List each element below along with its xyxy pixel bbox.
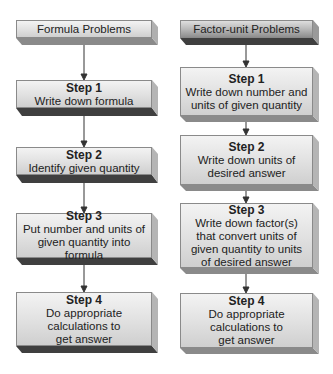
step-text: of desired answer: [201, 256, 292, 269]
step-title: Step 2: [228, 140, 264, 154]
step-text: desired answer: [208, 167, 286, 180]
step-text: given quantity into formula: [17, 236, 151, 262]
step-text: Write down formula: [35, 95, 134, 108]
step-text: Write down number and: [186, 86, 308, 99]
step-title: Step 4: [66, 293, 102, 307]
header-label: Factor-unit Problems: [193, 23, 300, 36]
step-text: Write down factor(s): [195, 217, 298, 230]
formula-step-4: Step 4 Do appropriate calculations to ge…: [16, 292, 152, 346]
step-text: that convert units of: [196, 230, 296, 243]
header-label: Formula Problems: [37, 23, 131, 36]
step-text: get answer: [56, 333, 112, 346]
step-text: calculations to: [210, 321, 283, 334]
factor-unit-step-2: Step 2 Write down units of desired answe…: [180, 135, 313, 185]
factor-unit-step-1: Step 1 Write down number and units of gi…: [180, 67, 313, 116]
step-title: Step 1: [228, 72, 264, 86]
formula-step-1: Step 1 Write down formula: [16, 80, 152, 108]
step-title: Step 2: [66, 148, 102, 162]
step-text: Write down units of: [198, 154, 296, 167]
step-text: Identify given quantity: [28, 162, 139, 175]
factor-unit-step-3: Step 3 Write down factor(s) that convert…: [180, 203, 313, 268]
factor-unit-step-4: Step 4 Do appropriate calculations to ge…: [180, 293, 313, 348]
step-title: Step 1: [66, 81, 102, 95]
step-title: Step 3: [228, 203, 264, 217]
step-text: Put number and units of: [23, 223, 145, 236]
formula-step-3: Step 3 Put number and units of given qua…: [16, 213, 152, 258]
step-title: Step 3: [66, 209, 102, 223]
step-text: given quantity to units: [191, 243, 302, 256]
step-text: units of given quantity: [191, 99, 302, 112]
step-title: Step 4: [228, 294, 264, 308]
factor-unit-problems-header: Factor-unit Problems: [180, 20, 313, 38]
step-text: calculations to: [48, 320, 121, 333]
step-text: get answer: [218, 334, 274, 347]
formula-problems-header: Formula Problems: [16, 20, 152, 38]
formula-step-2: Step 2 Identify given quantity: [16, 147, 152, 175]
step-text: Do appropriate: [46, 307, 122, 320]
step-text: Do appropriate: [208, 308, 284, 321]
